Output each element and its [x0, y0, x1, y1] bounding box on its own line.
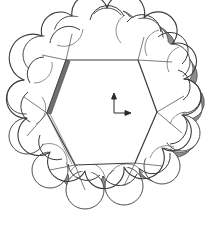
hexagonal-lobed-prism-drawing: [0, 0, 214, 226]
figure-canvas: Hexagonal prism with twelve circular lob…: [0, 0, 214, 226]
